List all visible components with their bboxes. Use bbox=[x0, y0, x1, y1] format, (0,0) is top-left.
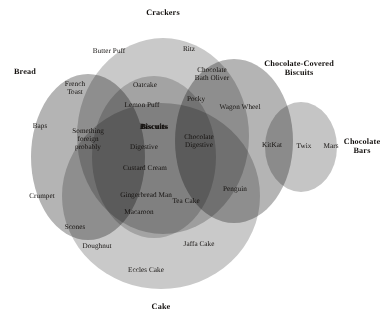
euler-diagram: CrackersBreadCakeChocolate-Covered Biscu… bbox=[0, 0, 387, 319]
set-ellipses bbox=[31, 38, 337, 289]
set-ellipse-chocolate-bars bbox=[265, 102, 337, 192]
venn-shapes-layer bbox=[0, 0, 387, 319]
set-ellipse-biscuits bbox=[92, 76, 216, 238]
